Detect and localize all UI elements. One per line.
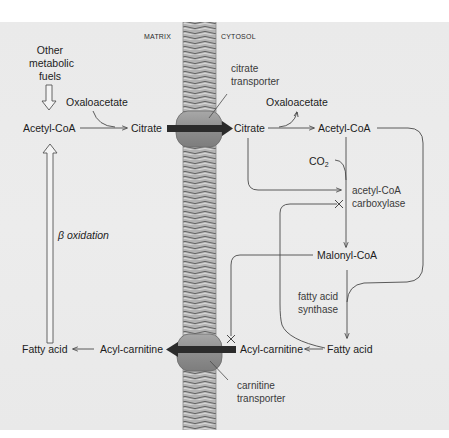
acc-line-2: carboxylase [352,197,405,210]
cytosol-label: CYTOSOL [221,31,256,43]
citrate-transporter-line-2: transporter [231,75,279,88]
citrate-transporter-label: citrate transporter [231,62,279,88]
beta-oxidation-hollow-arrow [43,144,57,343]
oxaloacetate-output-curve [279,112,297,127]
cytosol-citrate-label: Citrate [234,122,265,134]
beta-oxidation-label: β oxidation [58,229,109,241]
matrix-acyl-carnitine-label: Acyl-carnitine [100,343,163,355]
matrix-citrate-label: Citrate [131,122,162,134]
acetylcoa-to-synthase-loop [347,128,423,302]
citrate-transporter-line-1: citrate [231,62,279,75]
oxaloacetate-input-curve [93,111,115,127]
matrix-fatty-acid-label: Fatty acid [22,343,68,355]
fas-line-1: fatty acid [298,290,338,303]
matrix-oxaloacetate-label: Oxaloacetate [66,96,128,108]
fatty-acid-synthase-label: fatty acid synthase [298,290,338,316]
matrix-label: MATRIX [144,31,171,43]
cytosol-oxaloacetate-label: Oxaloacetate [266,96,328,108]
cytosol-acetyl-coa-label: Acetyl-CoA [318,122,371,134]
matrix-acetyl-coa-label: Acetyl-CoA [23,122,76,134]
carnitine-transporter-label: carnitine transporter [237,379,285,405]
other-fuels-line-3: fuels [29,70,71,83]
fuels-hollow-arrow [42,85,56,110]
carnitine-transporter-line-1: carnitine [237,379,285,392]
cytosol-acyl-carnitine-label: Acyl-carnitine [240,343,303,355]
other-fuels-line-2: metabolic [29,57,71,70]
co2-input-curve [335,160,346,180]
carnitine-transporter-line-2: transporter [237,392,285,405]
fatty-acid-inhibition-line [280,204,337,348]
co2-subscript: 2 [325,161,329,168]
co2-text: CO [309,155,325,167]
other-fuels-line-1: Other [29,44,71,57]
other-metabolic-fuels-label: Other metabolic fuels [29,44,71,83]
cytosol-fatty-acid-label: Fatty acid [327,343,373,355]
carnitine-transporter-inhibition-x-icon [227,335,235,343]
malonyl-coa-label: Malonyl-CoA [317,249,377,261]
co2-label: CO2 [309,155,329,167]
acetyl-coa-carboxylase-label: acetyl-CoA carboxylase [352,184,405,210]
acc-line-1: acetyl-CoA [352,184,405,197]
fas-line-2: synthase [298,303,338,316]
